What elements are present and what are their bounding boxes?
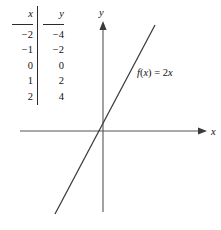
coordinate-plane-graph: y x f(x) = 2x: [0, 0, 221, 230]
function-label-variable: x: [167, 67, 173, 78]
y-axis-label: y: [98, 7, 104, 18]
function-label: f(x) = 2x: [137, 67, 173, 79]
function-label-equals: =: [152, 67, 163, 78]
x-axis-arrowhead: [198, 127, 207, 134]
y-axis-arrowhead: [99, 21, 106, 30]
x-axis-label: x: [210, 126, 216, 137]
figure-canvas: x y −2 −4 −1 −2 0 0: [0, 0, 221, 230]
function-line-f-of-x: [55, 25, 155, 214]
